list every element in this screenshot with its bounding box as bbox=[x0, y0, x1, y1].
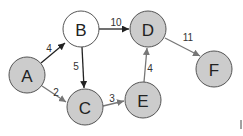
node-c: C bbox=[67, 89, 103, 125]
node-b-label: B bbox=[75, 21, 86, 40]
node-f-label: F bbox=[209, 61, 219, 80]
node-d: D bbox=[130, 11, 166, 47]
edge-a-b-weight: 4 bbox=[46, 43, 52, 54]
edge-c-e-weight: 3 bbox=[109, 93, 115, 104]
graph-diagram: 4 2 5 10 3 4 11 A B C D E F bbox=[0, 0, 243, 136]
edge-d-f-weight: 11 bbox=[183, 32, 194, 43]
node-a-label: A bbox=[21, 67, 33, 86]
node-b: B bbox=[63, 11, 99, 47]
edge-b-c-weight: 5 bbox=[73, 61, 79, 72]
node-f: F bbox=[196, 51, 232, 87]
node-c-label: C bbox=[79, 99, 91, 118]
edge-a-b bbox=[41, 43, 65, 63]
edge-b-c bbox=[82, 47, 84, 88]
edge-a-c-weight: 2 bbox=[53, 87, 59, 98]
node-d-label: D bbox=[142, 21, 154, 40]
edge-b-d-weight: 10 bbox=[110, 17, 122, 28]
node-a: A bbox=[9, 57, 45, 93]
edge-e-d-weight: 4 bbox=[147, 63, 153, 74]
node-e-label: E bbox=[137, 92, 148, 111]
node-e: E bbox=[125, 82, 161, 118]
